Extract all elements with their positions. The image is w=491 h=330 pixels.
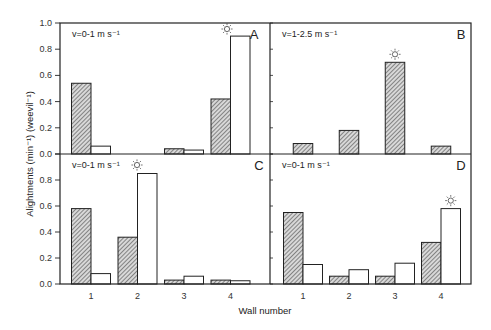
panel-letter: C xyxy=(254,158,263,173)
panel-letter: A xyxy=(250,27,259,42)
bar-hatched-wall-1 xyxy=(284,213,304,285)
x-axis-title: Wall number xyxy=(239,305,292,316)
bar-open-wall-2 xyxy=(349,270,369,284)
bar-open-wall-2 xyxy=(138,174,158,285)
y-tick-label: 0.6 xyxy=(39,70,52,80)
x-tick-label: 4 xyxy=(228,291,233,301)
y-tick-label: 0.8 xyxy=(39,44,52,54)
bar-open-wall-3 xyxy=(184,276,204,284)
bar-hatched-wall-1 xyxy=(72,209,92,284)
bar-open-wall-1 xyxy=(91,146,111,154)
bar-hatched-wall-3 xyxy=(376,276,396,284)
bar-open-wall-3 xyxy=(395,263,415,284)
x-tick-label: 1 xyxy=(88,291,93,301)
condition-label: v=1-2.5 m s⁻¹ xyxy=(282,29,337,39)
panel-letter: B xyxy=(457,27,466,42)
y-tick-label: 1.0 xyxy=(39,18,52,28)
panel-b: v=1-2.5 m s⁻¹B xyxy=(270,23,465,154)
chart-figure: v=0-1 m s⁻¹Av=1-2.5 m s⁻¹Bv=0-1 m s⁻¹Cv=… xyxy=(0,0,491,330)
bar-hatched-wall-1 xyxy=(72,83,92,154)
y-tick-label: 0.0 xyxy=(39,149,52,159)
condition-label: v=0-1 m s⁻¹ xyxy=(282,160,330,170)
bar-hatched-wall-4 xyxy=(422,242,442,284)
sun-icon xyxy=(389,49,400,60)
sun-icon xyxy=(445,195,456,206)
y-tick-label: 0.4 xyxy=(39,97,52,107)
y-tick-label: 0.6 xyxy=(39,201,52,211)
x-tick-label: 1 xyxy=(300,291,305,301)
panel-letter: D xyxy=(456,158,465,173)
x-tick-label: 2 xyxy=(346,291,351,301)
bar-open-wall-4 xyxy=(441,209,461,284)
y-tick-label: 0.2 xyxy=(39,253,52,263)
bar-hatched-wall-2 xyxy=(118,237,138,284)
x-tick-label: 2 xyxy=(135,291,140,301)
bar-hatched-wall-3 xyxy=(385,62,405,154)
bar-hatched-wall-1 xyxy=(293,144,313,154)
x-tick-label: 3 xyxy=(181,291,186,301)
bar-hatched-wall-3 xyxy=(165,149,185,154)
bar-hatched-wall-2 xyxy=(339,130,359,154)
y-tick-label: 0.2 xyxy=(39,123,52,133)
x-tick-label: 3 xyxy=(392,291,397,301)
bar-hatched-wall-4 xyxy=(431,146,451,154)
panel-d: v=0-1 m s⁻¹D xyxy=(270,154,466,284)
sun-icon xyxy=(221,23,232,34)
panel-a: v=0-1 m s⁻¹A xyxy=(72,23,259,154)
condition-label: v=0-1 m s⁻¹ xyxy=(72,29,120,39)
bar-hatched-wall-2 xyxy=(330,276,350,284)
y-tick-label: 0.0 xyxy=(39,279,52,289)
panel-c: v=0-1 m s⁻¹C xyxy=(72,158,264,284)
y-axis-title: Alightments (min⁻¹) (weevil⁻¹) xyxy=(24,91,35,217)
bar-open-wall-1 xyxy=(303,265,323,285)
bar-open-wall-4 xyxy=(231,36,251,154)
x-tick-label: 4 xyxy=(438,291,443,301)
sun-icon xyxy=(131,159,142,170)
bar-open-wall-1 xyxy=(91,274,111,284)
y-tick-label: 0.4 xyxy=(39,227,52,237)
condition-label: v=0-1 m s⁻¹ xyxy=(72,160,120,170)
bar-hatched-wall-4 xyxy=(211,99,231,154)
plot-area: v=0-1 m s⁻¹Av=1-2.5 m s⁻¹Bv=0-1 m s⁻¹Cv=… xyxy=(39,18,471,301)
y-tick-label: 0.8 xyxy=(39,175,52,185)
